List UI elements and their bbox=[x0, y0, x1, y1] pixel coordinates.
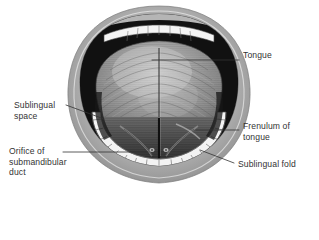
label-sublingual-fold: Sublingual fold bbox=[238, 159, 296, 170]
label-orifice-of-submandibular-duct: Orifice of submandibular duct bbox=[9, 146, 67, 178]
label-frenulum-of-tongue: Frenulum of tongue bbox=[243, 121, 290, 142]
label-tongue: Tongue bbox=[243, 50, 272, 61]
label-sublingual-space: Sublingual space bbox=[14, 100, 55, 121]
